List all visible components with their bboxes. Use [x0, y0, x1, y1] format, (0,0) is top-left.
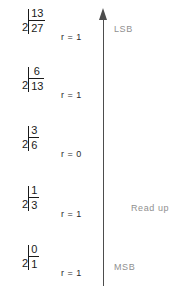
quotient-value: 0: [28, 244, 39, 256]
long-division-expression: 2 6 13: [22, 66, 44, 92]
dividend-value: 27: [28, 21, 45, 34]
quotient-value: 3: [28, 125, 39, 137]
quotient-value: 6: [28, 66, 44, 78]
long-division-bracket: 6 13: [28, 66, 44, 92]
msb-label: MSB: [114, 262, 135, 272]
long-division-bracket: 1 3: [28, 185, 39, 211]
long-division-expression: 2 1 3: [22, 185, 39, 211]
dividend-value: 1: [28, 257, 39, 270]
division-step-row: 2 13 27 r = 1: [0, 8, 190, 48]
long-division-expression: 2 3 6: [22, 125, 39, 151]
division-step-row: 2 0 1 r = 1: [0, 244, 190, 284]
long-division-expression: 2 0 1: [22, 244, 39, 270]
long-division-bracket: 13 27: [28, 8, 45, 34]
dividend-value: 3: [28, 198, 39, 211]
long-division-bracket: 0 1: [28, 244, 39, 270]
long-division-bracket: 3 6: [28, 125, 39, 151]
division-step-row: 2 6 13 r = 1: [0, 66, 190, 106]
remainder-label: r = 1: [61, 32, 82, 42]
read-up-label: Read up: [131, 203, 169, 213]
dividend-value: 6: [28, 138, 39, 151]
quotient-value: 13: [28, 8, 45, 20]
quotient-value: 1: [28, 185, 39, 197]
arrow-shaft: [103, 18, 104, 286]
remainder-label: r = 1: [61, 209, 82, 219]
remainder-label: r = 1: [61, 90, 82, 100]
remainder-label: r = 0: [61, 149, 82, 159]
lsb-label: LSB: [114, 24, 133, 34]
binary-conversion-diagram: 2 13 27 r = 1 2 6 13 r = 1 2 3: [0, 0, 190, 292]
dividend-value: 13: [28, 79, 44, 92]
division-step-row: 2 3 6 r = 0: [0, 125, 190, 165]
remainder-label: r = 1: [61, 268, 82, 278]
long-division-expression: 2 13 27: [22, 8, 45, 34]
